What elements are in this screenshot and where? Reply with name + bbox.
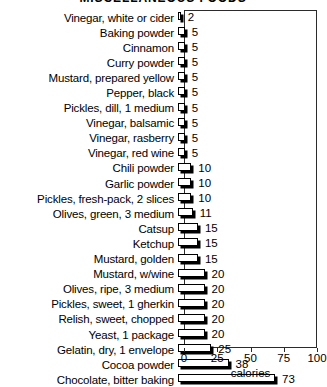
bar [178,103,185,111]
bar-area: 20 [178,312,326,327]
chart-row: Mustard, prepared yellow5 [0,70,326,85]
bar-area: 5 [178,101,326,116]
chart-row: Olives, green, 3 medium11 [0,206,326,221]
bar-area: 5 [178,40,326,55]
bar [178,72,185,80]
chart-row: Vinegar, rasberry5 [0,131,326,146]
chart-row: Vinegar, balsamic5 [0,116,326,131]
bar [178,87,185,95]
category-label: Garlic powder [0,178,178,190]
category-label: Mustard, w/wine [0,268,178,280]
category-label: Vinegar, balsamic [0,117,178,129]
bar [178,42,185,50]
bar-value-label: 20 [212,298,225,310]
category-label: Ketchup [0,238,178,250]
chart-row: Olives, ripe, 3 medium20 [0,282,326,297]
bar-area: 20 [178,297,326,312]
category-label: Yeast, 1 package [0,329,178,341]
chart-row: Relish, sweet, chopped20 [0,312,326,327]
category-label: Curry powder [0,57,178,69]
category-label: Mustard, golden [0,253,178,265]
bar-value-label: 5 [192,26,198,38]
bar [178,148,185,156]
category-label: Catsup [0,223,178,235]
bar [178,223,198,231]
chart-row: Chili powder10 [0,161,326,176]
category-label: Pepper, black [0,87,178,99]
bar-area: 11 [178,206,326,221]
chart-row: Pickles, fresh-pack, 2 slices10 [0,191,326,206]
bar-area: 5 [178,55,326,70]
bar-area: 5 [178,131,326,146]
bar [178,193,191,201]
bar [178,27,185,35]
chart-row: Catsup15 [0,221,326,236]
chart-rows: Vinegar, white or cider2Baking powder5Ci… [0,10,326,348]
x-axis-tick-label: 0 [181,352,187,365]
category-label: Baking powder [0,27,178,39]
bar-value-label: 15 [205,237,218,249]
bar-area: 20 [178,267,326,282]
bar-value-label: 5 [192,132,198,144]
bar-value-label: 10 [198,177,211,189]
bar-value-label: 15 [205,253,218,265]
bar [178,57,185,65]
bar-value-label: 5 [192,56,198,68]
category-label: Cinnamon [0,42,178,54]
bar-area: 5 [178,70,326,85]
bar-value-label: 20 [212,313,225,325]
bar-value-label: 11 [200,207,212,219]
bar [178,254,198,262]
bar-area: 2 [178,10,326,25]
chart-row: Mustard, golden15 [0,252,326,267]
bar-area: 10 [178,176,326,191]
bar-area: 5 [178,146,326,161]
x-axis-tick-label: 25 [211,352,224,365]
bar [178,329,205,337]
chart-row: Baking powder5 [0,25,326,40]
chart-row: Pickles, dill, 1 medium5 [0,101,326,116]
bar-value-label: 5 [192,102,198,114]
chart-row: Ketchup15 [0,236,326,251]
bar-value-label: 20 [212,283,225,295]
chart-row: Curry powder5 [0,55,326,70]
bar-value-label: 15 [205,222,218,234]
chart-row: Yeast, 1 package20 [0,327,326,342]
bar-value-label: 5 [192,41,198,53]
category-label: Gelatin, dry, 1 envelope [0,344,178,356]
chart-row: Pepper, black5 [0,85,326,100]
category-label: Vinegar, rasberry [0,132,178,144]
bar-area: 5 [178,85,326,100]
chart-row: Pickles, sweet, 1 gherkin20 [0,297,326,312]
bar [178,12,181,20]
chart-row: Vinegar, red wine5 [0,146,326,161]
x-axis-tick-label: 100 [307,352,326,365]
bar-value-label: 10 [198,162,211,174]
bar-value-label: 5 [192,147,198,159]
bar-value-label: 20 [212,328,225,340]
chart-row: Mustard, w/wine20 [0,267,326,282]
bar-area: 15 [178,236,326,251]
bar-value-label: 5 [192,86,198,98]
chart-title: MISCELLANEOUS FOODS [0,0,326,5]
bar [178,299,205,307]
bar [178,163,191,171]
chart-row: Cinnamon5 [0,40,326,55]
bar-area: 15 [178,221,326,236]
bar-area: 5 [178,25,326,40]
x-axis-tick-label: 50 [244,352,257,365]
category-label: Olives, ripe, 3 medium [0,283,178,295]
bar [178,178,191,186]
bar-value-label: 20 [212,268,225,280]
bar-area: 20 [178,327,326,342]
category-label: Pickles, sweet, 1 gherkin [0,298,178,310]
bar-area: 15 [178,252,326,267]
bar-area: 5 [178,116,326,131]
bar-value-label: 10 [198,192,211,204]
bar [178,269,205,277]
bar [178,314,205,322]
category-label: Cocoa powder [0,359,178,371]
bar [178,133,185,141]
x-axis-label: calories [184,367,317,379]
